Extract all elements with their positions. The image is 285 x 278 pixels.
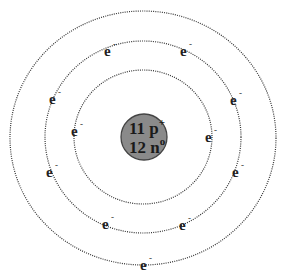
svg-text:e: e [230, 92, 237, 108]
electron: e- [140, 253, 152, 273]
atom-diagram: 11 p+ 12 no e- e- e- e- e- e- e- e- e- e… [0, 0, 285, 278]
svg-text:e: e [179, 217, 186, 233]
svg-text:e: e [102, 216, 109, 232]
svg-text:-: - [241, 160, 244, 170]
svg-text:-: - [189, 39, 192, 49]
svg-text:e: e [140, 257, 147, 273]
svg-text:-: - [188, 213, 191, 223]
electron: e- [71, 119, 83, 139]
svg-text:-: - [214, 125, 217, 135]
svg-text:-: - [239, 88, 242, 98]
svg-text:-: - [80, 119, 83, 129]
svg-text:-: - [111, 212, 114, 222]
electron: e- [46, 160, 58, 180]
svg-text:-: - [149, 253, 152, 263]
electron: e- [179, 213, 191, 233]
electron: e- [205, 125, 217, 145]
svg-text:e: e [205, 129, 212, 145]
svg-text:e: e [71, 123, 78, 139]
svg-text:e: e [49, 91, 56, 107]
electron: e- [230, 88, 242, 108]
electron: e- [180, 39, 192, 59]
svg-text:-: - [55, 160, 58, 170]
svg-text:-: - [58, 87, 61, 97]
electron: e- [102, 212, 114, 232]
electron: e- [232, 160, 244, 180]
svg-text:-: - [113, 39, 116, 49]
svg-text:e: e [180, 43, 187, 59]
svg-text:e: e [104, 43, 111, 59]
electron: e- [104, 39, 116, 59]
svg-text:e: e [46, 164, 53, 180]
electron: e- [49, 87, 61, 107]
svg-text:e: e [232, 164, 239, 180]
